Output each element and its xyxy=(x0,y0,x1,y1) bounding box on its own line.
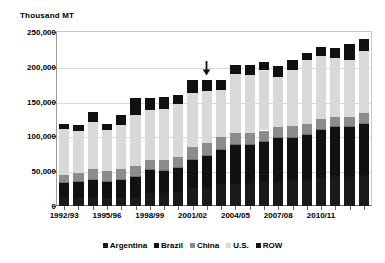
bar-segment-us xyxy=(73,131,83,173)
bar-segment-brazil xyxy=(302,134,312,180)
legend-swatch-icon xyxy=(103,243,108,248)
bar-segment-us xyxy=(287,70,297,126)
bar-segment-china xyxy=(344,117,354,126)
bar-segment-row xyxy=(59,124,69,129)
bar-segment-brazil xyxy=(273,137,283,182)
x-axis-tick xyxy=(335,206,336,210)
bar-group[interactable] xyxy=(330,48,340,206)
bar-group[interactable] xyxy=(73,125,83,206)
bar-group[interactable] xyxy=(116,115,126,206)
bar-segment-brazil xyxy=(287,137,297,179)
bar-segment-row xyxy=(216,80,226,90)
x-axis-tick-label: 1998/99 xyxy=(135,211,164,220)
bar-segment-brazil xyxy=(216,149,226,184)
legend-label: ROW xyxy=(263,241,283,250)
bar-segment-argentina xyxy=(259,182,269,206)
bar-segment-argentina xyxy=(88,197,98,206)
legend-label: Brazil xyxy=(161,241,183,250)
bars-container xyxy=(57,32,371,206)
bar-segment-us xyxy=(273,77,283,127)
bar-group[interactable] xyxy=(259,62,269,206)
bar-segment-brazil xyxy=(173,167,183,192)
bar-segment-us xyxy=(330,58,340,116)
legend-label: Argentina xyxy=(110,241,147,250)
bar-segment-argentina xyxy=(116,198,126,206)
x-axis-tick xyxy=(178,206,179,210)
bar-segment-china xyxy=(187,147,197,158)
bar-segment-us xyxy=(159,109,169,159)
bar-segment-argentina xyxy=(230,184,240,206)
x-axis-tick-label: 2004/05 xyxy=(221,211,250,220)
x-axis-tick xyxy=(78,206,79,210)
bar-segment-china xyxy=(159,160,169,170)
bar-segment-argentina xyxy=(187,188,197,206)
bar-segment-us xyxy=(88,122,98,170)
bar-group[interactable] xyxy=(102,124,112,206)
y-axis-tick-label: 50,000 xyxy=(32,167,56,176)
bar-segment-argentina xyxy=(330,177,340,206)
bar-group[interactable] xyxy=(88,112,98,206)
x-axis-tick xyxy=(107,206,108,210)
bar-segment-row xyxy=(359,39,369,51)
bar-segment-row xyxy=(173,95,183,104)
bar-segment-row xyxy=(344,44,354,60)
legend-item-us[interactable]: U.S. xyxy=(226,241,249,250)
bar-group[interactable] xyxy=(273,66,283,206)
bar-group[interactable] xyxy=(130,98,140,206)
legend-item-brazil[interactable]: Brazil xyxy=(154,241,183,250)
bar-group[interactable] xyxy=(216,80,226,206)
bar-segment-china xyxy=(287,126,297,137)
legend-swatch-icon xyxy=(256,243,261,248)
bar-segment-china xyxy=(259,131,269,142)
bar-segment-brazil xyxy=(245,144,255,183)
bar-segment-china xyxy=(245,133,255,144)
bar-segment-row xyxy=(259,62,269,70)
chart-axis-title: Thousand MT xyxy=(20,11,74,20)
bar-segment-row xyxy=(287,60,297,71)
bar-group[interactable] xyxy=(202,80,212,206)
bar-group[interactable] xyxy=(230,65,240,206)
x-axis-tick xyxy=(64,206,65,210)
bar-group[interactable] xyxy=(302,53,312,206)
bar-segment-brazil xyxy=(130,176,140,198)
legend-item-row[interactable]: ROW xyxy=(256,241,283,250)
bar-segment-row xyxy=(102,124,112,130)
bar-segment-argentina xyxy=(159,193,169,206)
bar-segment-argentina xyxy=(145,193,155,206)
bar-segment-us xyxy=(116,125,126,170)
bar-segment-us xyxy=(344,60,354,117)
legend-item-china[interactable]: China xyxy=(190,241,219,250)
bar-group[interactable] xyxy=(173,95,183,206)
x-axis-tick xyxy=(264,206,265,210)
x-axis-tick xyxy=(321,206,322,210)
bar-group[interactable] xyxy=(316,47,326,206)
bar-group[interactable] xyxy=(287,60,297,207)
bar-segment-argentina xyxy=(287,180,297,206)
bar-segment-row xyxy=(159,97,169,109)
bar-segment-argentina xyxy=(245,183,255,206)
bar-segment-argentina xyxy=(216,184,226,206)
bar-group[interactable] xyxy=(145,98,155,206)
x-axis-tick-label: 1995/96 xyxy=(92,211,121,220)
bar-group[interactable] xyxy=(359,39,369,206)
bar-segment-argentina xyxy=(273,182,283,206)
bar-segment-brazil xyxy=(202,155,212,187)
bar-group[interactable] xyxy=(344,44,354,206)
stacked-bar-chart: Thousand MT 050,000100,000150,000200,000… xyxy=(0,0,385,263)
bar-group[interactable] xyxy=(59,124,69,206)
bar-segment-argentina xyxy=(59,198,69,206)
x-axis-tick xyxy=(121,206,122,210)
bar-segment-argentina xyxy=(359,175,369,206)
bar-segment-brazil xyxy=(316,129,326,178)
y-axis-tick-label: 200,000 xyxy=(27,62,56,71)
bar-segment-china xyxy=(216,137,226,149)
bar-group[interactable] xyxy=(245,65,255,206)
legend-item-argentina[interactable]: Argentina xyxy=(103,241,147,250)
bar-segment-argentina xyxy=(344,177,354,206)
x-axis-tick xyxy=(307,206,308,210)
x-axis-tick xyxy=(136,206,137,210)
bar-group[interactable] xyxy=(159,97,169,206)
bar-segment-row xyxy=(273,66,283,76)
bar-group[interactable] xyxy=(187,80,197,206)
bar-segment-us xyxy=(59,129,69,175)
